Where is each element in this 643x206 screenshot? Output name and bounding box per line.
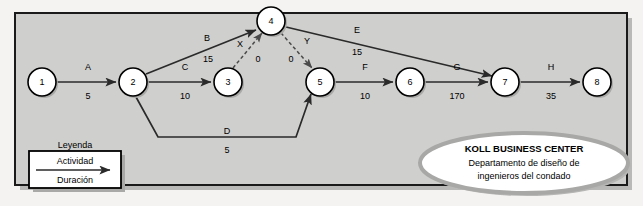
- edge-label-h: H: [548, 62, 555, 72]
- edge-label-e: E: [354, 25, 360, 35]
- callout-badge: KOLL BUSINESS CENTER Departamento de dis…: [420, 133, 631, 196]
- edge-duration-f: 10: [360, 91, 370, 101]
- node-5-label: 5: [317, 77, 322, 87]
- edge-duration-e: 15: [352, 47, 362, 57]
- node-4-label: 4: [268, 16, 273, 26]
- legend-duration-label: Duración: [57, 175, 93, 185]
- edge-duration-h: 35: [546, 91, 556, 101]
- edge-duration-d: 5: [224, 145, 229, 155]
- node-8-label: 8: [594, 77, 599, 87]
- edge-duration-a: 5: [85, 91, 90, 101]
- edge-label-y: Y: [304, 36, 310, 46]
- edge-label-d: D: [224, 126, 231, 136]
- legend-title: Leyenda: [58, 140, 93, 150]
- edge-duration-c: 10: [180, 91, 190, 101]
- edge-label-b: B: [204, 33, 210, 43]
- node-3-label: 3: [225, 77, 230, 87]
- node-7-label: 7: [502, 77, 507, 87]
- edge-label-f: F: [362, 62, 368, 72]
- node-2-label: 2: [130, 77, 135, 87]
- callout-line-1: Departamento de diseño de: [468, 158, 579, 168]
- edge-duration-y: 0: [288, 54, 293, 64]
- edge-duration-x: 0: [255, 54, 260, 64]
- node-6-label: 6: [407, 77, 412, 87]
- edge-label-g: G: [453, 62, 460, 72]
- node-1-label: 1: [39, 77, 44, 87]
- edge-label-c: C: [182, 62, 189, 72]
- edge-label-a: A: [85, 62, 91, 72]
- callout-title: KOLL BUSINESS CENTER: [465, 143, 584, 154]
- edge-label-x: X: [237, 39, 243, 49]
- edge-duration-g: 170: [449, 91, 464, 101]
- legend-activity-label: Actividad: [57, 156, 94, 166]
- diagram-canvas: A 5 B 15 C 10 D 5 E 15 F 10 G 170 H 35 X…: [0, 0, 643, 206]
- network-diagram-figure: A 5 B 15 C 10 D 5 E 15 F 10 G 170 H 35 X…: [0, 0, 643, 206]
- edge-duration-b: 15: [203, 54, 213, 64]
- callout-line-2: ingenieros del condado: [477, 171, 570, 181]
